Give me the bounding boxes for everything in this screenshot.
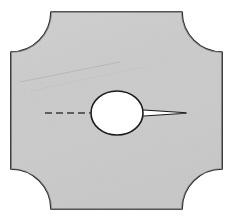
part-drawing-svg	[0, 0, 231, 219]
elliptical-bore	[91, 91, 143, 135]
drawing-canvas	[0, 0, 231, 219]
